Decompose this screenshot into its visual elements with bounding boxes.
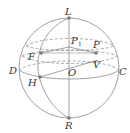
label-c: C xyxy=(119,66,127,77)
label-p: P xyxy=(92,39,100,50)
meridian-arc xyxy=(38,18,69,118)
label-l: L xyxy=(64,6,72,17)
segment-f-p1 xyxy=(41,47,69,53)
label-r: R xyxy=(64,120,73,131)
label-d: D xyxy=(8,65,17,76)
point-f-dot xyxy=(39,51,43,55)
point-h-dot xyxy=(38,75,42,79)
sphere-diagram: L R D C F H P P 1 O V xyxy=(0,0,130,133)
latitude-fp-front xyxy=(22,56,117,64)
label-v: V xyxy=(93,59,102,70)
upper-latitude-front xyxy=(26,46,114,51)
label-p1-subscript: 1 xyxy=(78,40,82,47)
label-o: O xyxy=(68,67,76,78)
label-f: F xyxy=(27,51,36,62)
label-p1: P xyxy=(70,35,78,46)
point-p-dot xyxy=(94,51,98,55)
upper-latitude-back xyxy=(26,39,114,47)
label-h: H xyxy=(27,77,37,88)
